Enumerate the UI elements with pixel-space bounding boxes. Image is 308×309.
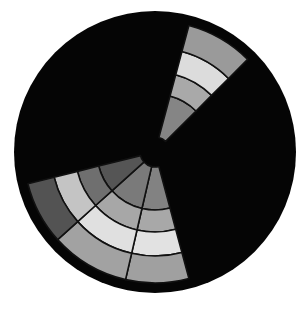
lower-right-wedge-ring-2 — [137, 208, 176, 232]
lower-right-wedge-ring-3 — [132, 229, 182, 256]
radial-diagram — [0, 0, 308, 309]
lower-right-wedge-ring-4 — [126, 252, 189, 283]
radial-diagram-canvas — [0, 0, 308, 309]
